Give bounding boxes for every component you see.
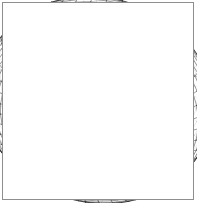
mesh-visible-lines (0, 0, 197, 203)
torus-wireframe-plot (0, 0, 197, 203)
figure-frame (0, 0, 197, 203)
